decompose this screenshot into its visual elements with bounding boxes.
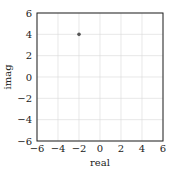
y-tick-label: 0 <box>26 72 32 83</box>
y-axis-label: imag <box>2 64 13 90</box>
x-tick-label: 0 <box>97 143 103 154</box>
y-tick-label: −2 <box>17 93 32 104</box>
y-tick-label: 4 <box>26 29 32 40</box>
x-tick-label: 6 <box>160 143 166 154</box>
x-axis-ticks: −6−4−20246 <box>30 143 167 154</box>
y-tick-label: −6 <box>17 136 32 147</box>
x-tick-label: −2 <box>72 143 87 154</box>
scatter-chart: −6−4−20246 −6−4−20246 real imag <box>0 0 173 171</box>
grid-lines <box>37 13 163 141</box>
data-point-marker <box>77 33 81 37</box>
x-axis-label: real <box>90 157 110 168</box>
x-tick-label: −4 <box>51 143 66 154</box>
y-axis-ticks: −6−4−20246 <box>17 8 32 147</box>
y-tick-label: 6 <box>26 8 32 19</box>
x-tick-label: 4 <box>139 143 145 154</box>
x-tick-label: 2 <box>118 143 124 154</box>
y-tick-label: −4 <box>17 114 32 125</box>
y-tick-label: 2 <box>26 50 32 61</box>
data-points <box>77 33 81 37</box>
